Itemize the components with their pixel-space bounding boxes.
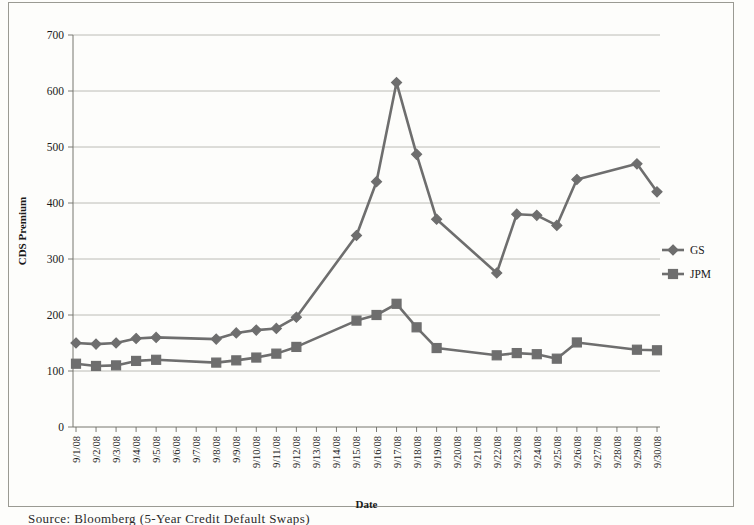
x-tick-label: 9/1/08: [71, 436, 82, 463]
series-jpm: [72, 299, 662, 370]
data-point-marker: [572, 174, 582, 184]
data-point-marker: [412, 149, 422, 159]
series-gs: [71, 78, 662, 350]
y-tick-label: 600: [47, 85, 65, 97]
x-tick-label: 9/20/08: [452, 436, 463, 468]
data-point-marker: [111, 338, 121, 348]
x-tick-label: 9/24/08: [532, 436, 543, 468]
data-point-marker: [352, 316, 361, 325]
x-tick-label: 9/11/08: [271, 436, 282, 468]
data-point-marker: [432, 344, 441, 353]
data-point-marker: [532, 350, 541, 359]
data-point-marker: [492, 351, 501, 360]
chart-canvas: 01002003004005006007009/1/089/2/089/3/08…: [0, 0, 754, 525]
data-point-marker: [552, 354, 561, 363]
data-point-marker: [512, 349, 521, 358]
data-point-marker: [252, 353, 261, 362]
data-point-marker: [232, 356, 241, 365]
data-point-marker: [668, 245, 678, 255]
x-tick-label: 9/16/08: [372, 436, 383, 468]
x-tick-label: 9/27/08: [592, 436, 603, 468]
figure-source-caption: Source: Bloomberg (5-Year Credit Default…: [28, 511, 310, 525]
y-gridlines: 0100200300400500600700: [47, 29, 660, 433]
data-point-marker: [231, 328, 241, 338]
data-point-marker: [132, 356, 141, 365]
x-tick-label: 9/5/08: [151, 436, 162, 463]
x-tick-label: 9/21/08: [472, 436, 483, 468]
x-tick-label: 9/22/08: [492, 436, 503, 468]
x-axis-ticks: 9/1/089/2/089/3/089/4/089/5/089/6/089/7/…: [71, 427, 663, 468]
x-tick-label: 9/13/08: [311, 436, 322, 468]
x-tick-label: 9/19/08: [432, 436, 443, 468]
x-tick-label: 9/2/08: [91, 436, 102, 463]
y-tick-label: 0: [58, 421, 64, 433]
legend-label-jpm: JPM: [690, 268, 711, 280]
x-tick-label: 9/23/08: [512, 436, 523, 468]
data-point-marker: [392, 78, 402, 88]
y-axis-title: CDS Premium: [16, 197, 28, 266]
data-point-marker: [552, 220, 562, 230]
data-point-marker: [251, 325, 261, 335]
y-tick-label: 200: [47, 309, 65, 321]
x-tick-label: 9/4/08: [131, 436, 142, 463]
data-point-marker: [292, 342, 301, 351]
data-point-marker: [372, 177, 382, 187]
data-point-marker: [272, 349, 281, 358]
x-tick-label: 9/28/08: [612, 436, 623, 468]
data-point-marker: [271, 323, 281, 333]
x-tick-label: 9/6/08: [171, 436, 182, 463]
y-tick-label: 300: [47, 253, 65, 265]
data-point-marker: [151, 332, 161, 342]
x-tick-label: 9/9/08: [231, 436, 242, 463]
x-tick-label: 9/25/08: [552, 436, 563, 468]
x-tick-label: 9/14/08: [331, 436, 342, 468]
y-tick-label: 700: [47, 29, 65, 41]
y-tick-label: 500: [47, 141, 65, 153]
data-point-marker: [572, 338, 581, 347]
x-tick-label: 9/17/08: [392, 436, 403, 468]
series-line: [76, 304, 657, 366]
data-point-marker: [112, 361, 121, 370]
x-tick-label: 9/8/08: [211, 436, 222, 463]
x-tick-label: 9/7/08: [191, 436, 202, 463]
x-tick-label: 9/29/08: [632, 436, 643, 468]
data-point-marker: [412, 323, 421, 332]
data-point-marker: [211, 334, 221, 344]
data-point-marker: [131, 334, 141, 344]
x-tick-label: 9/10/08: [251, 436, 262, 468]
data-point-marker: [512, 209, 522, 219]
data-point-marker: [152, 355, 161, 364]
y-tick-label: 400: [47, 197, 65, 209]
x-tick-label: 9/3/08: [111, 436, 122, 463]
x-tick-label: 9/30/08: [652, 436, 663, 468]
series-line: [76, 83, 657, 345]
data-point-marker: [72, 359, 81, 368]
data-point-marker: [653, 346, 662, 355]
legend-label-gs: GS: [690, 244, 705, 256]
x-axis-title: Date: [356, 498, 378, 510]
x-tick-label: 9/15/08: [351, 436, 362, 468]
x-tick-label: 9/12/08: [291, 436, 302, 468]
data-point-marker: [632, 345, 641, 354]
data-point-marker: [669, 270, 678, 279]
data-point-marker: [91, 339, 101, 349]
x-tick-label: 9/18/08: [412, 436, 423, 468]
cds-premium-line-chart: 01002003004005006007009/1/089/2/089/3/08…: [0, 0, 754, 525]
data-point-marker: [372, 311, 381, 320]
y-tick-label: 100: [47, 365, 65, 377]
data-point-marker: [92, 361, 101, 370]
data-point-marker: [392, 299, 401, 308]
chart-legend: GSJPM: [662, 244, 711, 280]
data-point-marker: [212, 358, 221, 367]
x-tick-label: 9/26/08: [572, 436, 583, 468]
data-point-marker: [532, 210, 542, 220]
